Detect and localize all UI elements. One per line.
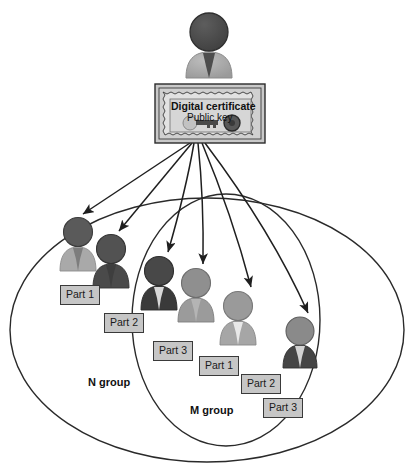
arrow-to-n-part-2 bbox=[119, 143, 192, 231]
person-icon-n-part-3 bbox=[283, 317, 317, 368]
label-n-part-2: Part 2 bbox=[104, 313, 144, 333]
group-label-n: N group bbox=[88, 376, 130, 388]
person-icon-n-part-1 bbox=[60, 218, 96, 272]
arrow-to-m-part-2 bbox=[202, 143, 251, 287]
group-label-m: M group bbox=[190, 404, 233, 416]
person-icon-issuer bbox=[186, 13, 232, 78]
person-icon-m-part-2 bbox=[220, 292, 256, 346]
arrow-to-m-part-3 bbox=[168, 143, 194, 252]
certificate-subtitle: Public key bbox=[187, 113, 233, 123]
label-m-part-3: Part 3 bbox=[153, 341, 193, 361]
label-m-part-2: Part 2 bbox=[241, 374, 281, 394]
arrow-to-n-part-1 bbox=[83, 143, 190, 214]
diagram-svg bbox=[0, 0, 416, 471]
arrow-to-m-part-1 bbox=[198, 143, 203, 264]
person-icon-m-part-3 bbox=[141, 257, 177, 311]
diagram-canvas: Digital certificate Public key Part 1 Pa… bbox=[0, 0, 416, 471]
certificate-title: Digital certificate bbox=[171, 101, 256, 112]
label-m-part-1: Part 1 bbox=[199, 356, 239, 376]
person-icon-n-part-2 bbox=[93, 235, 129, 289]
person-icon-m-part-1 bbox=[178, 269, 214, 323]
arrow-to-n-part-3 bbox=[205, 143, 308, 313]
label-n-part-1: Part 1 bbox=[60, 285, 100, 305]
label-n-part-3: Part 3 bbox=[263, 398, 303, 418]
